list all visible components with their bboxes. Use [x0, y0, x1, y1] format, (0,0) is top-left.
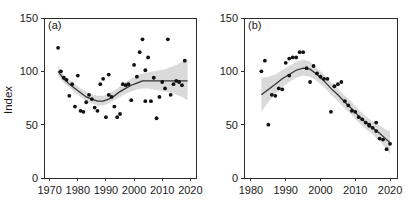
x-tick-label: 1990 [273, 184, 297, 196]
x-tick-label: 2020 [378, 184, 402, 196]
figure-container: 050100150197019801990200020102020 (a) In… [0, 0, 409, 213]
data-point [143, 68, 147, 72]
data-point [266, 123, 270, 127]
data-point [112, 105, 116, 109]
data-point [70, 82, 74, 86]
data-point [132, 63, 136, 67]
data-point [270, 93, 274, 97]
y-tick-label: 150 [220, 12, 238, 24]
data-point [326, 77, 330, 81]
data-point [98, 82, 102, 86]
data-point [388, 142, 392, 146]
x-tick-label: 2010 [150, 184, 174, 196]
data-point [90, 97, 94, 101]
data-point [385, 147, 389, 151]
y-tick-label: 50 [26, 119, 38, 131]
data-point [183, 59, 187, 63]
x-tick-label: 2000 [122, 184, 146, 196]
data-point [160, 80, 164, 84]
data-point [87, 93, 91, 97]
data-point [381, 138, 385, 142]
chart-panel-a: 050100150197019801990200020102020 (a) In… [0, 0, 205, 213]
data-point [67, 94, 71, 98]
panel-a-ci-band [58, 59, 187, 106]
panel-b-svg: 05010015019801990200020102020 (b) [205, 0, 409, 213]
data-point [336, 82, 340, 86]
data-point [308, 80, 312, 84]
panel-b-axes: 05010015019801990200020102020 [220, 12, 403, 196]
x-tick-label: 2020 [178, 184, 202, 196]
data-point [312, 64, 316, 68]
data-point [110, 95, 114, 99]
chart-panel-b: 05010015019801990200020102020 (b) [205, 0, 409, 213]
x-tick-label: 1990 [94, 184, 118, 196]
data-point [315, 72, 319, 76]
y-tick-label: 50 [226, 119, 238, 131]
data-point [101, 77, 105, 81]
y-tick-label: 0 [232, 172, 238, 184]
data-point [298, 50, 302, 54]
data-point [367, 124, 371, 128]
data-point [172, 82, 176, 86]
data-point [180, 83, 184, 87]
data-point [301, 50, 305, 54]
data-point [155, 116, 159, 120]
data-point [146, 56, 150, 60]
data-point [107, 73, 111, 77]
data-point [166, 37, 170, 41]
data-point [59, 69, 63, 73]
data-point [259, 69, 263, 73]
data-point [287, 74, 291, 78]
data-point [287, 57, 291, 61]
data-point [364, 121, 368, 125]
data-point [177, 80, 181, 84]
data-point [350, 109, 354, 113]
data-point [163, 87, 167, 91]
data-point [82, 110, 86, 114]
data-point [56, 46, 60, 50]
data-point [158, 95, 162, 99]
y-tick-label: 0 [32, 172, 38, 184]
data-point [273, 94, 277, 98]
data-point [277, 87, 281, 91]
data-point [65, 78, 69, 82]
data-point [291, 56, 295, 60]
data-point [322, 77, 326, 81]
x-tick-label: 1970 [37, 184, 61, 196]
data-point [378, 137, 382, 141]
data-point [127, 82, 131, 86]
data-point [152, 76, 156, 80]
data-point [138, 50, 142, 54]
data-point [371, 126, 375, 130]
data-point [333, 84, 337, 88]
data-point [374, 121, 378, 125]
y-tick-label: 150 [20, 12, 38, 24]
panel-a-axes: 050100150197019801990200020102020 [20, 12, 203, 196]
data-point [374, 129, 378, 133]
data-point [280, 88, 284, 92]
data-point [141, 37, 145, 41]
data-point [339, 80, 343, 84]
data-point [104, 115, 108, 119]
x-tick-label: 2010 [343, 184, 367, 196]
data-point [360, 117, 364, 121]
data-point [135, 75, 139, 79]
data-point [129, 98, 133, 102]
panel-b-ci-band [261, 60, 390, 155]
panel-b-label: (b) [248, 19, 261, 31]
y-axis-title: Index [2, 86, 14, 114]
data-point [118, 112, 122, 116]
data-point [84, 100, 88, 104]
data-point [294, 56, 298, 60]
data-point [93, 106, 97, 110]
data-point [343, 99, 347, 103]
data-point [346, 104, 350, 108]
panel-b-data-points [259, 50, 391, 151]
data-point [143, 99, 147, 103]
data-point [73, 105, 77, 109]
data-point [96, 109, 100, 113]
data-point [115, 115, 119, 119]
data-point [169, 93, 173, 97]
data-point [353, 110, 357, 114]
x-tick-label: 1980 [239, 184, 263, 196]
